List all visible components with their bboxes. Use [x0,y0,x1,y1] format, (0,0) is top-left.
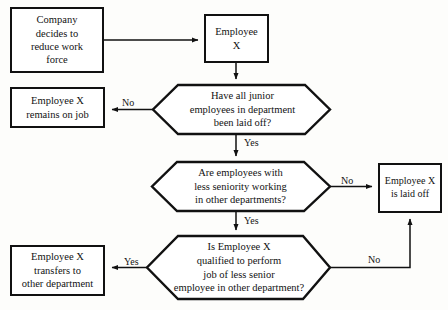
node-transfers-label: Employee X transfers to other department [22,250,93,290]
node-employee-is-laid-off[interactable]: Employee X is laid off [378,163,442,213]
node-employee-x[interactable]: Employee X [204,14,269,63]
node-employee-transfers[interactable]: Employee X transfers to other department [10,245,105,296]
edge-label-decision2-no: No [341,175,353,186]
node-start-label: Company decides to reduce work force [31,13,83,67]
node-employee-remains-on-job[interactable]: Employee X remains on job [10,87,105,128]
edge-label-decision1-no: No [122,97,134,108]
node-company-reduce-workforce[interactable]: Company decides to reduce work force [10,7,104,73]
flowchart-canvas: remains on job --> decision 2 --> laid o… [0,0,448,310]
decision-shape-qualified [147,236,330,299]
edge-label-decision3-no: No [368,254,380,265]
edge-label-decision2-yes: Yes [244,215,259,226]
edge-label-decision3-yes: Yes [124,256,139,267]
node-laidoff-label: Employee X is laid off [385,175,435,201]
decision-shape-less-seniority [152,162,330,211]
decision-shape-junior-employees [153,85,330,134]
edge-label-decision1-yes: Yes [244,137,259,148]
node-remains-label: Employee X remains on job [26,94,88,121]
node-employee-label: Employee X [215,25,258,52]
